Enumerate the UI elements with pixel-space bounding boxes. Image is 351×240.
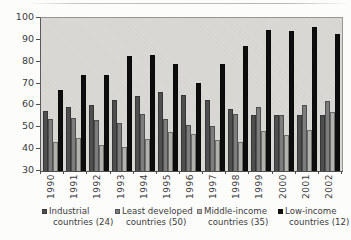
x-tick-label-text: 1990 bbox=[47, 174, 56, 199]
bar-2000-series-3 bbox=[289, 31, 294, 171]
bar-group-1990 bbox=[41, 18, 64, 171]
x-tick-label: 1999 bbox=[248, 174, 271, 202]
x-tick-mark bbox=[179, 171, 180, 174]
bar-1997-series-3 bbox=[220, 64, 225, 171]
x-tick-label: 2001 bbox=[295, 174, 318, 202]
legend-item-series-0: Industrialcountries (24) bbox=[42, 206, 113, 227]
x-tick-label: 1995 bbox=[156, 174, 179, 202]
legend-swatch-icon bbox=[42, 209, 47, 214]
x-tick-mark bbox=[156, 171, 157, 174]
legend-label-line: countries (35) bbox=[204, 217, 268, 228]
legend-label-line: Industrial bbox=[49, 206, 113, 217]
bar-2001-series-3 bbox=[312, 27, 317, 171]
bar-1994-series-3 bbox=[150, 55, 155, 171]
x-tick-label-text: 1997 bbox=[209, 174, 218, 199]
legend-label: Low-incomecountries (12) bbox=[285, 206, 349, 227]
x-tick-label: 1997 bbox=[202, 174, 225, 202]
y-tick-label: 90 bbox=[4, 34, 34, 44]
legend-label-line: Low-income bbox=[285, 206, 349, 217]
y-tick-label: 50 bbox=[4, 121, 34, 131]
bar-group-2002 bbox=[319, 18, 342, 171]
bar-1998-series-3 bbox=[243, 46, 248, 171]
x-tick-label-text: 1996 bbox=[186, 174, 195, 199]
legend-label-line: countries (24) bbox=[49, 217, 113, 228]
bar-1996-series-3 bbox=[196, 83, 201, 172]
bar-1992-series-3 bbox=[104, 75, 109, 171]
bar-1993-series-3 bbox=[127, 56, 132, 171]
x-tick-mark bbox=[63, 171, 64, 174]
legend-label-line: countries (50) bbox=[122, 217, 193, 228]
x-tick-label-text: 1993 bbox=[117, 174, 126, 199]
bar-1990-series-3 bbox=[58, 90, 63, 171]
x-tick-mark bbox=[225, 171, 226, 174]
x-tick-label-text: 1991 bbox=[70, 174, 79, 199]
bar-group-1999 bbox=[249, 18, 272, 171]
bar-group-1997 bbox=[203, 18, 226, 171]
x-tick-label-text: 1998 bbox=[232, 174, 241, 199]
x-tick-mark bbox=[40, 171, 41, 174]
legend-label: Industrialcountries (24) bbox=[49, 206, 113, 227]
legend: Industrialcountries (24)Least developedc… bbox=[0, 206, 351, 236]
legend-label-line: Middle-income bbox=[204, 206, 268, 217]
legend-label: Least developedcountries (50) bbox=[122, 206, 193, 227]
x-tick-label: 1993 bbox=[109, 174, 132, 202]
y-tick-label: 80 bbox=[4, 56, 34, 66]
x-tick-mark bbox=[341, 171, 342, 174]
bar-group-1995 bbox=[157, 18, 180, 171]
x-tick-label: 1991 bbox=[63, 174, 86, 202]
legend-swatch-icon bbox=[115, 209, 120, 214]
top-rule-line bbox=[28, 3, 349, 4]
x-tick-label-text: 1995 bbox=[163, 174, 172, 199]
bar-group-1998 bbox=[226, 18, 249, 171]
bar-1999-series-3 bbox=[266, 30, 271, 171]
x-tick-mark bbox=[272, 171, 273, 174]
x-tick-mark bbox=[133, 171, 134, 174]
bar-group-1994 bbox=[134, 18, 157, 171]
x-tick-label-text: 1994 bbox=[140, 174, 149, 199]
x-tick-mark bbox=[110, 171, 111, 174]
x-tick-label-text: 2002 bbox=[325, 174, 334, 199]
bar-1991-series-3 bbox=[81, 75, 86, 171]
y-tick-label: 100 bbox=[4, 12, 34, 22]
x-tick-mark bbox=[86, 171, 87, 174]
bar-group-2000 bbox=[273, 18, 296, 171]
x-tick-label: 1994 bbox=[133, 174, 156, 202]
bar-1995-series-3 bbox=[173, 64, 178, 171]
x-tick-label: 2000 bbox=[272, 174, 295, 202]
x-tick-label-text: 2001 bbox=[302, 174, 311, 199]
legend-label-line: countries (12) bbox=[285, 217, 349, 228]
bar-group-1996 bbox=[180, 18, 203, 171]
legend-swatch-icon bbox=[278, 209, 283, 214]
bar-group-1993 bbox=[110, 18, 133, 171]
bar-group-1991 bbox=[64, 18, 87, 171]
x-tick-mark bbox=[318, 171, 319, 174]
legend-item-series-1: Least developedcountries (50) bbox=[115, 206, 193, 227]
bar-group-2001 bbox=[296, 18, 319, 171]
y-tick-label: 30 bbox=[4, 165, 34, 175]
plot-area bbox=[40, 17, 343, 172]
x-tick-mark bbox=[248, 171, 249, 174]
y-tick-label: 70 bbox=[4, 78, 34, 88]
legend-label: Middle-incomecountries (35) bbox=[204, 206, 268, 227]
y-tick-label: 40 bbox=[4, 143, 34, 153]
x-tick-label-text: 1992 bbox=[93, 174, 102, 199]
bar-chart-figure: 30405060708090100 1990199119921993199419… bbox=[0, 0, 351, 240]
x-tick-label-text: 1999 bbox=[255, 174, 264, 199]
legend-item-series-2: Middle-incomecountries (35) bbox=[197, 206, 268, 227]
legend-swatch-icon bbox=[197, 209, 202, 214]
bar-group-1992 bbox=[87, 18, 110, 171]
legend-label-line: Least developed bbox=[122, 206, 193, 217]
x-tick-label: 2002 bbox=[318, 174, 341, 202]
x-tick-label: 1990 bbox=[40, 174, 63, 202]
x-tick-mark bbox=[295, 171, 296, 174]
x-tick-label: 1996 bbox=[179, 174, 202, 202]
y-tick-label: 60 bbox=[4, 99, 34, 109]
legend-item-series-3: Low-incomecountries (12) bbox=[278, 206, 349, 227]
x-tick-label: 1998 bbox=[225, 174, 248, 202]
bar-2002-series-3 bbox=[335, 34, 340, 171]
x-tick-mark bbox=[202, 171, 203, 174]
x-tick-label-text: 2000 bbox=[279, 174, 288, 199]
x-tick-label: 1992 bbox=[86, 174, 109, 202]
